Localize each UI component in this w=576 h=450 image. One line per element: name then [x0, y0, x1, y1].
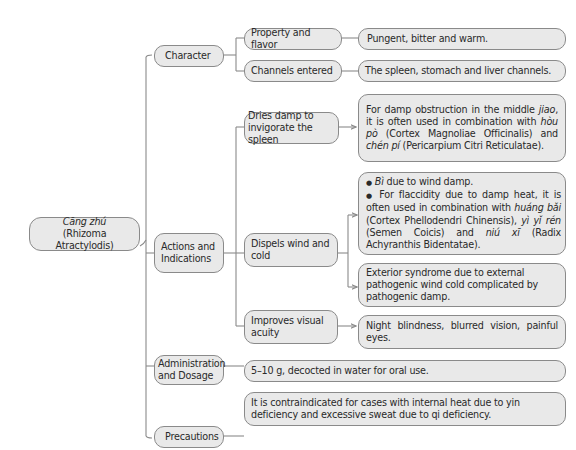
channels-entered-detail: The spleen, stomach and liver channels.	[358, 60, 566, 82]
branch-actions-indications: Actions and Indications	[154, 233, 224, 273]
detail-bullet-1: ● Bì due to wind damp.	[366, 176, 561, 189]
dispels-wind-cold-detail: ● Bì due to wind damp. ● For flaccidity …	[358, 172, 566, 255]
dries-damp-detail: For damp obstruction in the middle jiao,…	[358, 94, 566, 162]
exterior-syndrome-detail: Exterior syndrome due to external pathog…	[358, 263, 566, 307]
improves-visual-acuity-node: Improves visual acuity	[244, 310, 338, 344]
channels-entered-node: Channels entered	[244, 60, 342, 82]
property-flavor-detail: Pungent, bitter and warm.	[358, 28, 566, 50]
root-subtitle: (Rhizoma Atractylodis)	[36, 228, 133, 252]
branch-administration-dosage: Administration and Dosage	[154, 355, 224, 385]
branch-character: Character	[154, 45, 224, 67]
root-node: Cāng zhú (Rhizoma Atractylodis)	[29, 217, 140, 251]
root-title: Cāng zhú	[36, 216, 133, 228]
precautions-detail: It is contraindicated for cases with int…	[244, 392, 566, 426]
branch-precautions: Precautions	[154, 426, 224, 448]
improves-visual-detail: Night blindness, blurred vision, painful…	[358, 315, 566, 349]
dries-damp-node: Dries damp to invigorate the spleen	[244, 112, 339, 144]
property-flavor-node: Property and flavor	[244, 28, 342, 50]
administration-dosage-detail: 5–10 g, decocted in water for oral use.	[244, 360, 566, 382]
detail-bullet-2: ● For flaccidity due to damp heat, it is…	[366, 189, 561, 251]
dispels-wind-cold-node: Dispels wind and cold	[244, 233, 338, 267]
